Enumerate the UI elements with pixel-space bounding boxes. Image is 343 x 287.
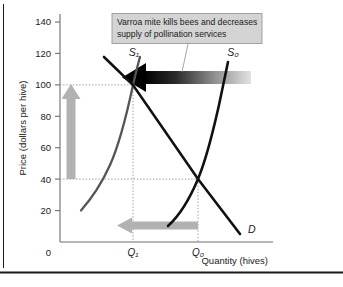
curve-label-s1: S₁ bbox=[129, 46, 140, 58]
y-axis-label: Price (dollars per hive) bbox=[17, 80, 28, 175]
x-tick-q0: Q₀ bbox=[192, 247, 204, 258]
x-axis-label: Quantity (hives) bbox=[201, 255, 268, 266]
curve-label-d: D bbox=[248, 223, 256, 235]
y-tick-60: 60 bbox=[40, 142, 51, 153]
y-tick-80: 80 bbox=[40, 111, 51, 122]
y-tick-40: 40 bbox=[40, 174, 51, 185]
callout-text: Varroa mite kills bees and decreases sup… bbox=[117, 16, 259, 40]
y-tick-20: 20 bbox=[40, 205, 51, 216]
y-tick-100: 100 bbox=[35, 79, 51, 90]
x-tick-q1: Q₁ bbox=[128, 247, 139, 258]
figure-panel: 140 120 100 80 60 40 20 0 Price (dollars… bbox=[0, 0, 343, 287]
supply-demand-chart: 140 120 100 80 60 40 20 0 Price (dollars… bbox=[0, 0, 343, 287]
curve-label-s0: S₀ bbox=[227, 46, 239, 58]
y-tick-120: 120 bbox=[35, 48, 51, 59]
y-tick-0: 0 bbox=[46, 247, 51, 258]
y-tick-140: 140 bbox=[35, 16, 51, 27]
